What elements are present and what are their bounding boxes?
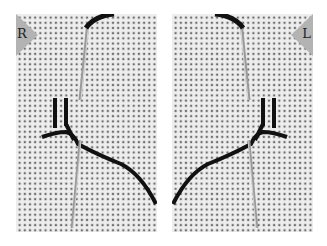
needle-upper (80, 22, 88, 100)
needle-and-thread-illustration (16, 14, 157, 232)
left-handed-panel: L (172, 14, 313, 232)
left-hand-label: L (302, 26, 311, 41)
needle-and-thread-illustration-mirrored (172, 14, 313, 232)
right-hand-label: R (17, 26, 27, 41)
right-handed-panel: R (16, 14, 157, 232)
